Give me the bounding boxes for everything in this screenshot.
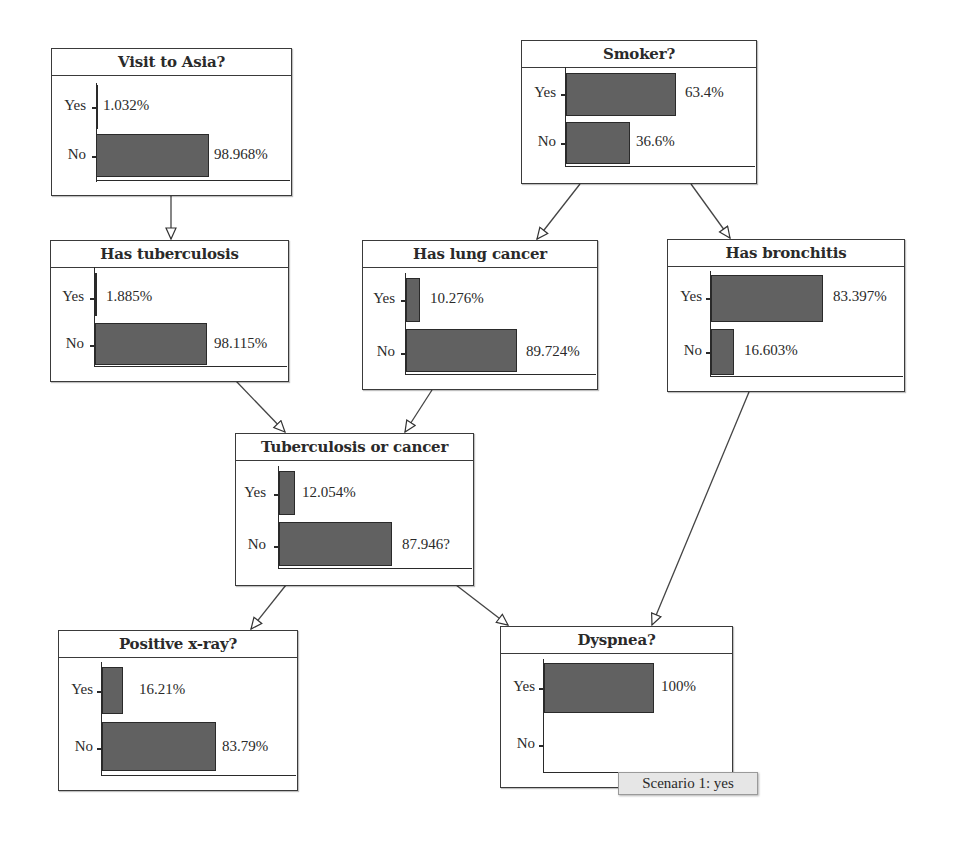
scenario-label[interactable]: Scenario 1: yes [618,772,758,795]
edge-tb-or-cancer-to-xray [251,585,286,629]
state-label-yes: Yes [226,484,266,501]
node-has-tuberculosis[interactable]: Has tuberculosis Yes 1.885% No 98.115% [50,240,289,382]
value-no: 83.79% [222,738,268,755]
value-yes: 83.397% [833,288,887,305]
edge-lung-cancer-to-tb-or-cancer [405,390,432,432]
state-label-no: No [226,536,266,553]
node-title: Has bronchitis [668,240,904,267]
bar-yes [95,273,97,316]
state-label-no: No [46,146,86,163]
node-smoker[interactable]: Smoker? Yes 63.4% No 36.6% [521,40,757,184]
node-visit-to-asia[interactable]: Visit to Asia? Yes 1.032% No 98.968% [51,48,292,196]
bar-no [711,329,734,375]
state-label-no: No [53,738,93,755]
value-no: 16.603% [744,342,798,359]
node-title: Tuberculosis or cancer [236,434,473,461]
node-tuberculosis-or-cancer[interactable]: Tuberculosis or cancer Yes 12.054% No 87… [235,433,474,586]
node-title: Has lung cancer [363,241,597,268]
bar-yes [566,73,676,116]
value-yes: 1.885% [106,288,152,305]
bar-no [406,329,517,372]
bar-yes [102,667,123,714]
value-yes: 12.054% [302,484,356,501]
bar-yes [711,275,823,322]
state-label-no: No [355,343,395,360]
state-label-yes: Yes [46,97,86,114]
edge-smoker-to-lung-cancer [537,184,580,239]
node-has-bronchitis[interactable]: Has bronchitis Yes 83.397% No 16.603% [667,239,905,392]
node-title: Positive x-ray? [59,631,297,658]
bar-no [566,122,630,164]
tick-no [539,745,544,747]
value-no: 87.946? [402,536,450,553]
node-title: Smoker? [522,41,756,68]
edge-tuberculosis-to-tb-or-cancer [236,381,285,432]
value-yes: 1.032% [103,97,149,114]
node-has-lung-cancer[interactable]: Has lung cancer Yes 10.276% No 89.724% [362,240,598,390]
bar-yes [406,278,420,322]
edge-tb-or-cancer-to-dyspnea [456,585,508,625]
state-label-no: No [44,335,84,352]
value-no: 98.968% [214,146,268,163]
value-yes: 100% [661,678,696,695]
edge-smoker-to-bronchitis [691,184,730,238]
bar-yes [279,471,295,515]
node-positive-xray[interactable]: Positive x-ray? Yes 16.21% No 83.79% [58,630,298,791]
value-yes: 16.21% [139,681,185,698]
node-title: Has tuberculosis [51,241,288,268]
state-label-no: No [495,735,535,752]
edge-bronchitis-to-dyspnea [652,392,749,625]
node-title: Visit to Asia? [52,49,291,76]
bar-yes [96,85,98,129]
value-no: 36.6% [636,133,675,150]
value-yes: 63.4% [685,84,724,101]
bar-no [102,722,216,771]
state-label-no: No [516,133,556,150]
state-label-yes: Yes [44,288,84,305]
bar-no [279,522,392,566]
value-no: 89.724% [526,343,580,360]
state-label-yes: Yes [53,681,93,698]
bar-no [95,323,207,365]
state-label-yes: Yes [662,288,702,305]
state-label-yes: Yes [516,84,556,101]
plot-baseline [96,180,290,181]
state-label-no: No [662,342,702,359]
node-title: Dyspnea? [501,627,732,654]
state-label-yes: Yes [495,678,535,695]
value-no: 98.115% [214,335,267,352]
bar-no [96,134,209,177]
value-yes: 10.276% [430,290,484,307]
state-label-yes: Yes [355,290,395,307]
bar-yes [544,663,654,713]
node-dyspnea[interactable]: Dyspnea? Yes 100% No [500,626,733,788]
